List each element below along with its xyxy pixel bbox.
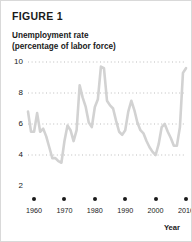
x-tick-dot: [93, 197, 97, 201]
x-axis-title: Year: [164, 223, 180, 232]
x-tick-dot: [184, 197, 188, 201]
gridlines: [28, 62, 186, 155]
x-tick-dot: [154, 197, 158, 201]
data-series-line: [28, 67, 186, 163]
y-tick-label: 2: [9, 181, 23, 190]
x-tick-label: 1960: [21, 206, 47, 215]
y-tick-label: 6: [9, 119, 23, 128]
x-tick-label: 2010: [173, 206, 192, 215]
x-tick-label: 1980: [82, 206, 108, 215]
y-tick-label: 4: [9, 150, 23, 159]
x-tick-label: 1990: [112, 206, 138, 215]
y-tick-label: 10: [9, 57, 23, 66]
x-tick-label: 2000: [143, 206, 169, 215]
unemployment-rate-line: [28, 67, 186, 163]
x-tick-label: 1970: [51, 206, 77, 215]
y-tick-label: 8: [9, 88, 23, 97]
figure-card: FIGURE 1 Unemployment rate(percentage of…: [0, 0, 192, 242]
